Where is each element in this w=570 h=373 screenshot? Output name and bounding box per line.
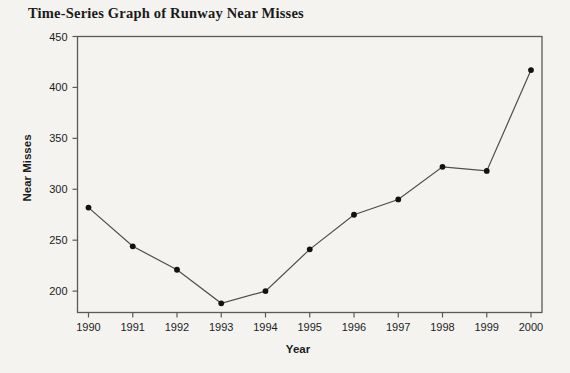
data-point	[484, 168, 490, 174]
y-tick-label: 250	[49, 234, 67, 246]
data-point	[86, 205, 92, 211]
x-tick-label: 1990	[76, 321, 100, 333]
y-tick-label: 400	[49, 81, 67, 93]
series-line	[89, 70, 532, 303]
data-point	[218, 300, 224, 306]
data-point	[351, 212, 357, 218]
plot-frame	[78, 37, 543, 313]
y-tick-label: 450	[49, 31, 67, 43]
data-point	[130, 243, 136, 249]
data-point	[395, 197, 401, 203]
data-point	[440, 164, 446, 170]
x-tick-label: 1997	[386, 321, 410, 333]
x-tick-label: 1992	[165, 321, 189, 333]
x-tick-label: 1996	[342, 321, 366, 333]
x-tick-label: 1998	[430, 321, 454, 333]
data-point	[528, 67, 534, 73]
y-tick-label: 300	[49, 183, 67, 195]
data-point	[307, 246, 313, 252]
plot-area: 2002503003504004501990199119921993199419…	[0, 0, 570, 373]
x-tick-label: 1993	[209, 321, 233, 333]
x-tick-label: 1994	[253, 321, 277, 333]
y-tick-label: 350	[49, 132, 67, 144]
data-point	[174, 267, 180, 273]
x-tick-label: 1991	[121, 321, 145, 333]
x-tick-label: 2000	[519, 321, 543, 333]
data-point	[263, 288, 269, 294]
x-tick-label: 1999	[475, 321, 499, 333]
x-tick-label: 1995	[298, 321, 322, 333]
y-tick-label: 200	[49, 285, 67, 297]
chart-container: Time-Series Graph of Runway Near Misses …	[0, 0, 570, 373]
